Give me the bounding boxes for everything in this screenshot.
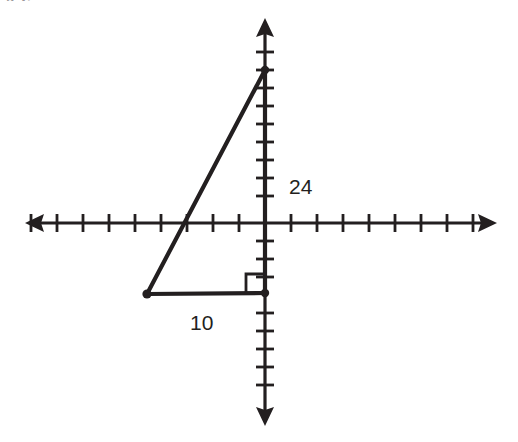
triangle-vertex-left — [142, 289, 151, 298]
cropped-caption-fragment: g y, — [6, 0, 306, 1]
x-axis-group — [25, 214, 497, 232]
horizontal-leg-length-label: 10 — [190, 311, 213, 334]
vertical-leg-length-label: 24 — [289, 175, 313, 198]
triangle-horizontal-leg — [147, 293, 265, 294]
triangle-vertex-right-angle — [261, 289, 269, 297]
figure-container: g y, — [0, 0, 518, 442]
right-triangle — [142, 66, 269, 299]
triangle-hypotenuse — [147, 70, 265, 294]
coordinate-plane-figure: 24 10 — [0, 0, 518, 442]
triangle-vertex-apex — [261, 66, 269, 74]
